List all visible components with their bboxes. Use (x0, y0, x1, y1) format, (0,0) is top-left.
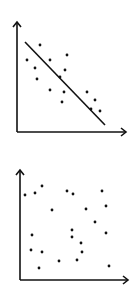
data-point (39, 44, 42, 47)
data-point (71, 229, 74, 232)
data-point (80, 242, 83, 245)
data-point (64, 69, 67, 72)
data-point (94, 221, 97, 224)
data-point (59, 76, 62, 79)
data-point (61, 101, 64, 104)
data-point (34, 67, 37, 70)
data-point (38, 267, 41, 270)
scatter-charts (0, 0, 139, 304)
data-point (85, 208, 88, 211)
data-point (99, 110, 102, 113)
data-point (63, 91, 66, 94)
data-point (108, 265, 111, 268)
data-point (105, 232, 108, 235)
data-point (41, 251, 44, 254)
data-point (94, 99, 97, 102)
data-point (36, 78, 39, 81)
data-point (105, 205, 108, 208)
data-point (31, 234, 34, 237)
data-point (58, 260, 61, 263)
data-point (101, 190, 104, 193)
data-point (26, 59, 29, 62)
data-point (30, 249, 33, 252)
data-point (49, 89, 52, 92)
data-point (72, 193, 75, 196)
data-point (41, 185, 44, 188)
negative-correlation-chart (13, 22, 126, 136)
data-point (71, 236, 74, 239)
data-point (24, 194, 27, 197)
data-point (34, 192, 37, 195)
data-point (86, 91, 89, 94)
trend-line (25, 42, 105, 125)
data-point (81, 251, 84, 254)
data-point (90, 108, 93, 111)
data-point (76, 259, 79, 262)
data-point (66, 54, 69, 57)
data-point (51, 209, 54, 212)
data-point (49, 59, 52, 62)
no-correlation-chart (16, 170, 128, 284)
data-point (66, 190, 69, 193)
